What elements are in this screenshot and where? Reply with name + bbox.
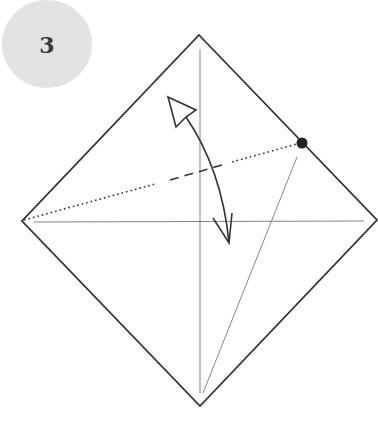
fold-arrow-shaft (186, 117, 229, 243)
fold-line-dotted-left (24, 184, 155, 220)
closed-arrowhead-icon (213, 213, 232, 243)
fold-line-dotted-right (232, 144, 297, 162)
origami-diagram (0, 0, 378, 429)
open-arrowhead-icon (168, 97, 196, 127)
horizontal-crease (34, 221, 364, 222)
diagonal-crease (203, 157, 297, 393)
paper-square-outline (22, 35, 377, 406)
reference-point-dot (297, 138, 308, 149)
